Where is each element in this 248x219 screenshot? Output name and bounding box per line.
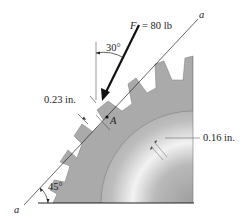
force-arrowhead <box>101 88 110 101</box>
angle-45-arrowhead-low <box>47 199 50 203</box>
angle-45-label: 45° <box>48 181 63 192</box>
point-a-dot <box>105 115 108 118</box>
axis-label-top: a <box>199 9 204 20</box>
angle-30-arc <box>96 52 124 58</box>
point-a-label: A <box>109 115 117 126</box>
tooth-dim-leader <box>90 96 96 103</box>
rim-thickness-label: 0.16 in. <box>203 132 235 143</box>
force-value: = 80 lb <box>142 20 172 31</box>
angle-30-label: 30° <box>106 42 121 53</box>
angle-30-arrowhead <box>96 52 100 55</box>
axis-label-bottom: a <box>14 204 19 215</box>
gear-force-diagram: a a 45° 30° F = 80 lb 0.23 in. A 0.16 in… <box>0 0 248 219</box>
tooth-thickness-label: 0.23 in. <box>44 94 76 105</box>
force-label: F = 80 lb <box>129 20 172 31</box>
angle-45-arrowhead-high <box>40 188 43 192</box>
force-symbol: F <box>129 20 137 31</box>
